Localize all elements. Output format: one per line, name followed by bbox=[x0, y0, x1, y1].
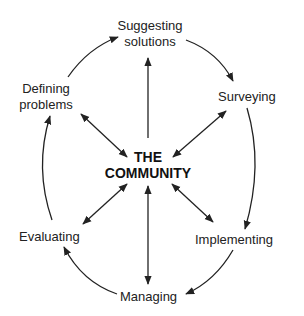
node-surveying: Surveying bbox=[218, 89, 276, 105]
node-implementing: Implementing bbox=[195, 232, 273, 248]
center-the-community: THE COMMUNITY bbox=[98, 149, 198, 181]
center-line2: COMMUNITY bbox=[98, 165, 198, 181]
arrow-center-evaluating bbox=[83, 184, 127, 224]
arrow-suggesting-to-surveying bbox=[186, 40, 233, 81]
node-suggesting-line2: solutions bbox=[114, 34, 186, 50]
community-cycle-diagram: Suggesting solutions Defining problems S… bbox=[0, 0, 304, 316]
arrow-center-implementing bbox=[172, 184, 213, 222]
node-defining-problems: Defining problems bbox=[16, 81, 76, 113]
node-evaluating: Evaluating bbox=[19, 229, 80, 245]
node-managing: Managing bbox=[120, 289, 177, 305]
node-defining-line1: Defining bbox=[16, 81, 76, 97]
node-suggesting-solutions: Suggesting solutions bbox=[114, 18, 186, 50]
node-defining-line2: problems bbox=[16, 97, 76, 113]
arrow-implementing-to-managing bbox=[186, 250, 233, 294]
node-suggesting-line1: Suggesting bbox=[114, 18, 186, 34]
arrow-defining-to-suggesting bbox=[68, 37, 118, 77]
arrow-evaluating-to-defining bbox=[42, 116, 52, 220]
arrow-managing-to-evaluating bbox=[64, 247, 117, 294]
center-line1: THE bbox=[98, 149, 198, 165]
arrow-surveying-to-implementing bbox=[245, 108, 255, 229]
